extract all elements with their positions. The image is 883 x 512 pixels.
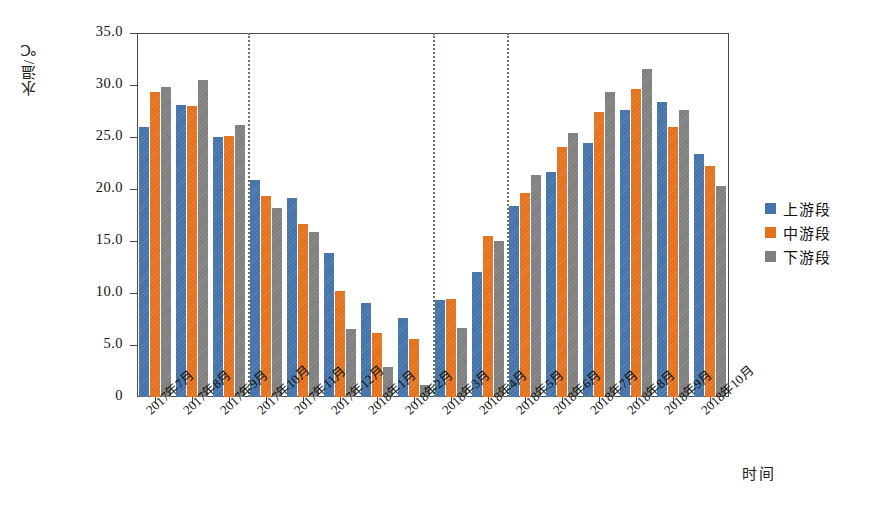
bar-group [176, 33, 208, 397]
bar [494, 241, 504, 397]
bar-group [694, 33, 726, 397]
y-tick-label: 25.0 [96, 127, 123, 144]
legend-item[interactable]: 下游段 [765, 244, 831, 268]
bar [594, 112, 604, 397]
bar [235, 125, 245, 397]
bar [705, 166, 715, 397]
bar [150, 92, 160, 397]
y-tick-mark [130, 189, 137, 190]
bar-group [287, 33, 319, 397]
bar-group [657, 33, 689, 397]
bar-group [546, 33, 578, 397]
bar-group [324, 33, 356, 397]
y-tick-mark [130, 241, 137, 242]
bar-group [213, 33, 245, 397]
bar [583, 143, 593, 397]
bar [139, 127, 149, 397]
y-tick-label: 15.0 [96, 231, 123, 248]
bar [261, 196, 271, 397]
bar [716, 186, 726, 397]
bar-group [472, 33, 504, 397]
legend-item[interactable]: 上游段 [765, 196, 831, 220]
y-tick-label: 30.0 [96, 75, 123, 92]
legend-swatch [765, 227, 776, 238]
bar [176, 105, 186, 397]
legend-swatch [765, 251, 776, 262]
bar [161, 87, 171, 397]
bar-group [361, 33, 393, 397]
y-tick-mark [130, 33, 137, 34]
bar [187, 106, 197, 397]
bar-group [583, 33, 615, 397]
bar [272, 208, 282, 397]
y-tick-label: 20.0 [96, 179, 123, 196]
bar [631, 89, 641, 397]
bar [520, 193, 530, 397]
bar [224, 136, 234, 397]
legend-label: 下游段 [783, 246, 831, 267]
bar-group [435, 33, 467, 397]
bar [213, 137, 223, 397]
water-temperature-bar-chart: 水温/℃ 05.010.015.020.025.030.035.0 2017年7… [0, 0, 883, 512]
bar [198, 80, 208, 397]
y-axis-title: 水温/℃ [18, 40, 44, 96]
bar [679, 110, 689, 397]
bar-group [398, 33, 430, 397]
legend-item[interactable]: 中游段 [765, 220, 831, 244]
legend-label: 中游段 [783, 222, 831, 243]
bar-group [139, 33, 171, 397]
chart-legend: 上游段中游段下游段 [765, 196, 831, 268]
bar [694, 154, 704, 397]
bar-group [509, 33, 541, 397]
y-tick-label: 35.0 [96, 23, 123, 40]
bar-group [620, 33, 652, 397]
bar [620, 110, 630, 397]
y-tick-mark [130, 293, 137, 294]
y-tick-mark [130, 137, 137, 138]
bar [546, 172, 556, 397]
bar [568, 133, 578, 397]
x-axis-title: 时间 [742, 462, 776, 483]
y-tick-label: 5.0 [103, 335, 123, 352]
bar [557, 147, 567, 397]
legend-swatch [765, 203, 776, 214]
bar [668, 127, 678, 397]
y-tick-mark [130, 85, 137, 86]
bar [605, 92, 615, 397]
bar [642, 69, 652, 397]
legend-label: 上游段 [783, 198, 831, 219]
y-tick-label: 0 [115, 387, 123, 404]
y-tick-label: 10.0 [96, 283, 123, 300]
bar [531, 175, 541, 397]
y-tick-mark [130, 345, 137, 346]
bar [657, 102, 667, 397]
bars-layer [137, 33, 729, 397]
bar-group [250, 33, 282, 397]
